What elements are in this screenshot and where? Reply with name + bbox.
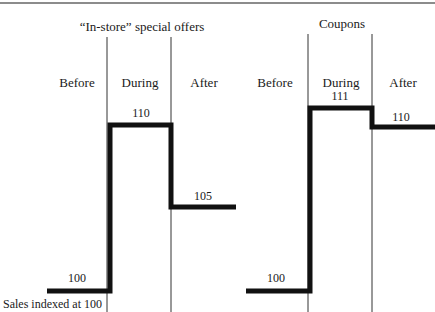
value-before-left: 100 <box>68 272 86 284</box>
panel-title-in-store: “In-store” special offers <box>80 20 205 33</box>
phase-after-left: After <box>190 76 217 89</box>
value-during-left: 110 <box>132 107 150 119</box>
panel-title-coupons: Coupons <box>319 17 365 30</box>
phase-before-left: Before <box>59 76 94 89</box>
phase-during-right: During <box>323 76 360 89</box>
y-axis-note: Sales indexed at 100 <box>3 298 102 310</box>
phase-after-right: After <box>389 76 416 89</box>
step-line-coupons <box>246 108 435 291</box>
value-before-right: 100 <box>267 272 285 284</box>
value-after-right: 110 <box>392 111 410 123</box>
phase-during-left: During <box>122 76 159 89</box>
phase-before-right: Before <box>257 76 292 89</box>
step-line-in-store <box>47 125 236 291</box>
value-after-left: 105 <box>194 190 212 202</box>
value-during-right: 111 <box>331 90 348 102</box>
chart-canvas <box>0 0 435 312</box>
